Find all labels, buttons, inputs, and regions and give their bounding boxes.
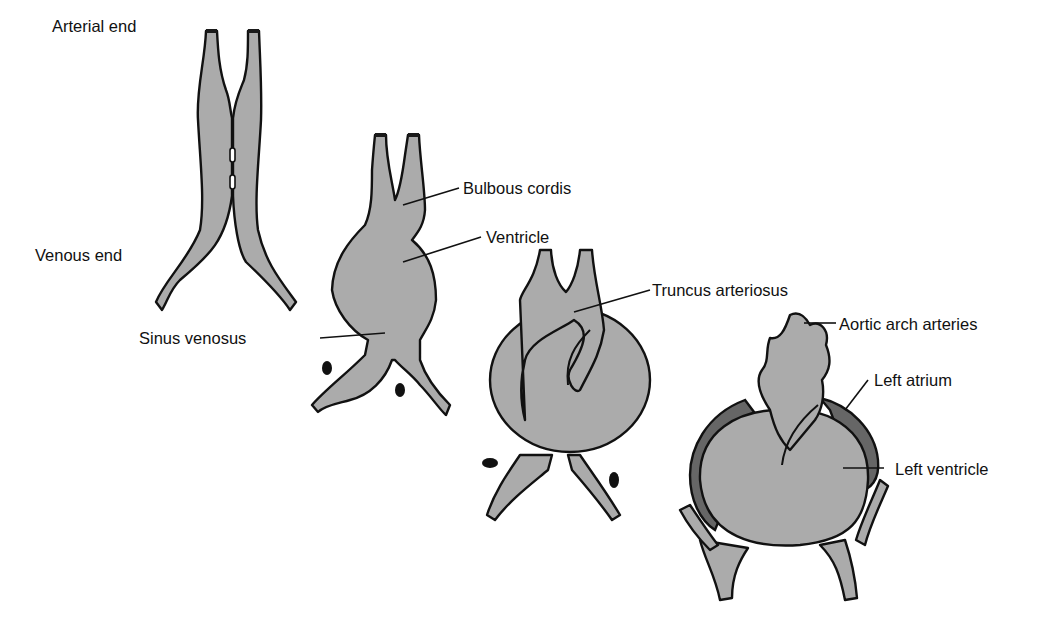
leader-left-atrium bbox=[845, 380, 868, 410]
fusion-gap-1 bbox=[230, 148, 235, 162]
label-left-atrium: Left atrium bbox=[874, 372, 952, 389]
label-arterial-end: Arterial end bbox=[52, 18, 136, 35]
vessel-opening-right bbox=[609, 472, 619, 488]
label-aortic-arch-arteries: Aortic arch arteries bbox=[839, 316, 977, 333]
label-sinus-venosus: Sinus venosus bbox=[139, 330, 246, 347]
heart-development-diagram: Arterial end Venous end Sinus venosus Bu… bbox=[0, 0, 1040, 626]
vessel-opening-left bbox=[482, 458, 498, 468]
stage-1-heart-tubes bbox=[156, 29, 296, 310]
stage-2-heart-tube bbox=[312, 133, 450, 415]
vessel-opening-left bbox=[322, 361, 332, 375]
label-left-ventricle: Left ventricle bbox=[895, 461, 989, 478]
label-bulbous-cordis: Bulbous cordis bbox=[463, 180, 571, 197]
fusion-gap-2 bbox=[230, 175, 235, 189]
label-truncus-arteriosus: Truncus arteriosus bbox=[652, 282, 788, 299]
stage-4-looped-heart bbox=[680, 313, 888, 600]
vessel-opening-right bbox=[395, 383, 405, 397]
diagram-illustration bbox=[0, 0, 1040, 626]
stage-3-looping-heart bbox=[482, 250, 650, 520]
label-ventricle: Ventricle bbox=[486, 229, 549, 246]
label-venous-end: Venous end bbox=[35, 247, 122, 264]
